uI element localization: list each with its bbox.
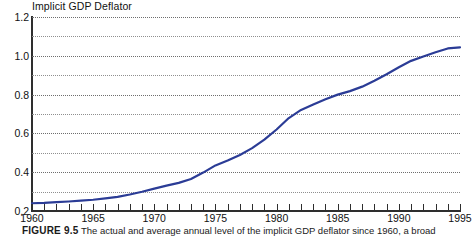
- x-axis-tick: [399, 204, 400, 211]
- x-axis-tick: [350, 204, 351, 211]
- x-axis-tick: [81, 204, 82, 211]
- x-axis-tick-label: 1975: [204, 212, 227, 224]
- x-axis-tick: [374, 204, 375, 211]
- x-axis-tick: [105, 204, 106, 211]
- x-axis-tick: [387, 204, 388, 211]
- y-axis-tick-label: 0.8: [3, 89, 29, 101]
- x-axis-tick-label: 1960: [20, 212, 43, 224]
- x-axis-tick: [301, 204, 302, 211]
- x-axis-tick: [56, 204, 57, 211]
- figure-caption-label: FIGURE 9.5: [22, 225, 78, 236]
- y-axis-tick-label: 1.2: [3, 11, 29, 23]
- x-axis-tick-label: 1965: [81, 212, 104, 224]
- x-axis-tick: [69, 204, 70, 211]
- x-axis-tick: [277, 204, 278, 211]
- x-axis-tick: [32, 204, 33, 211]
- x-axis-tick: [167, 204, 168, 211]
- x-axis-tick: [93, 204, 94, 211]
- x-axis-tick: [436, 204, 437, 211]
- x-axis-tick: [325, 204, 326, 211]
- x-axis-tick: [191, 204, 192, 211]
- x-axis-tick: [228, 204, 229, 211]
- x-axis-tick: [130, 204, 131, 211]
- y-axis-tick-label: 0.4: [3, 166, 29, 178]
- x-axis-tick: [240, 204, 241, 211]
- x-axis-tick: [142, 204, 143, 211]
- y-axis-tick-label: 0.6: [3, 127, 29, 139]
- x-axis-tick-label: 1970: [143, 212, 166, 224]
- x-axis-tick: [448, 204, 449, 211]
- chart-title: Implicit GDP Deflator: [32, 0, 132, 12]
- x-axis-tick: [118, 204, 119, 211]
- x-axis-labels: 19601965197019751980198519901995: [0, 212, 467, 226]
- x-axis-tick: [44, 204, 45, 211]
- x-axis-tick: [215, 204, 216, 211]
- x-axis-tick: [338, 204, 339, 211]
- x-axis-tick-label: 1985: [326, 212, 349, 224]
- x-axis-tick-label: 1990: [387, 212, 410, 224]
- x-axis-tick-label: 1980: [265, 212, 288, 224]
- data-series-line: [32, 17, 460, 211]
- x-axis-tick: [460, 204, 461, 211]
- x-axis-tick: [154, 204, 155, 211]
- y-axis-labels: 0.20.40.60.81.01.2: [0, 17, 29, 211]
- x-axis-tick: [362, 204, 363, 211]
- x-axis-tick: [179, 204, 180, 211]
- x-axis-tick: [252, 204, 253, 211]
- x-axis-tick: [313, 204, 314, 211]
- x-axis-tick: [203, 204, 204, 211]
- figure-caption: FIGURE 9.5 The actual and average annual…: [22, 225, 467, 236]
- y-axis-tick-label: 1.0: [3, 50, 29, 62]
- x-axis-ticks: [32, 204, 460, 212]
- x-axis-tick: [411, 204, 412, 211]
- x-axis-tick: [264, 204, 265, 211]
- figure-caption-text: The actual and average annual level of t…: [81, 225, 436, 236]
- x-axis-tick: [289, 204, 290, 211]
- x-axis-tick: [423, 204, 424, 211]
- x-axis-tick-label: 1995: [448, 212, 471, 224]
